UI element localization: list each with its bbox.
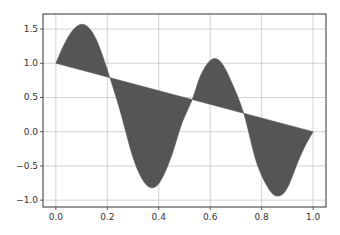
- x-tick-label: 0.6: [203, 212, 218, 222]
- y-tick-label: −0.5: [16, 161, 38, 171]
- y-tick-label: 0.5: [24, 92, 38, 102]
- y-tick-label: 0.0: [24, 127, 39, 137]
- chart: 0.00.20.40.60.81.0 −1.0−0.50.00.51.01.5: [0, 0, 340, 235]
- fill-area: [56, 24, 313, 196]
- y-tick-label: 1.0: [24, 58, 39, 68]
- fill-between-area: [56, 24, 313, 196]
- x-tick-label: 0.8: [255, 212, 270, 222]
- y-tick-label: 1.5: [24, 24, 38, 34]
- x-tick-label: 0.0: [49, 212, 64, 222]
- y-axis: −1.0−0.50.00.51.01.5: [16, 24, 43, 205]
- y-tick-label: −1.0: [16, 195, 38, 205]
- x-tick-label: 1.0: [306, 212, 321, 222]
- x-axis: 0.00.20.40.60.81.0: [49, 207, 321, 222]
- x-tick-label: 0.2: [100, 212, 114, 222]
- x-tick-label: 0.4: [152, 212, 167, 222]
